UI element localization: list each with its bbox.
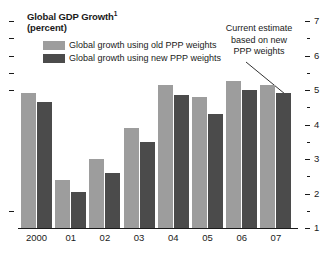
y-axis-left-tick bbox=[9, 73, 14, 74]
y-axis-tick-label: 4 bbox=[314, 120, 326, 129]
bar-group bbox=[260, 21, 292, 228]
bar bbox=[226, 81, 241, 228]
y-axis-tick bbox=[305, 21, 310, 22]
bar-group bbox=[55, 21, 87, 228]
y-axis-minor-tick bbox=[307, 142, 310, 143]
bar-group bbox=[124, 21, 156, 228]
y-axis-minor-tick bbox=[307, 38, 310, 39]
bar-group bbox=[21, 21, 53, 228]
bar-group bbox=[192, 21, 224, 228]
y-axis-tick-label: 1 bbox=[314, 223, 326, 232]
x-axis-tick-label: 07 bbox=[252, 232, 299, 243]
chart-container: Global GDP Growth1 (percent) Global grow… bbox=[0, 0, 330, 265]
y-axis-minor-tick bbox=[307, 176, 310, 177]
y-axis-tick bbox=[305, 125, 310, 126]
y-axis-minor-tick bbox=[307, 73, 310, 74]
y-axis-minor-tick bbox=[307, 107, 310, 108]
bar bbox=[71, 192, 86, 228]
bar bbox=[158, 85, 173, 228]
y-axis-tick-label: 2 bbox=[314, 189, 326, 198]
bar-group bbox=[226, 21, 258, 228]
y-axis-tick bbox=[305, 228, 310, 229]
y-axis-tick bbox=[305, 56, 310, 57]
bar-group bbox=[89, 21, 121, 228]
bar bbox=[89, 159, 104, 228]
bar bbox=[37, 102, 52, 228]
bar-group bbox=[158, 21, 190, 228]
bar bbox=[276, 93, 291, 228]
bars-layer bbox=[18, 21, 296, 228]
y-axis-left-tick bbox=[9, 90, 14, 91]
bar bbox=[260, 85, 275, 228]
bar bbox=[192, 97, 207, 228]
bar bbox=[124, 128, 139, 228]
bar bbox=[55, 180, 70, 228]
bar bbox=[208, 114, 223, 228]
x-axis-baseline bbox=[18, 228, 298, 229]
bar bbox=[21, 93, 36, 228]
y-axis-tick-label: 7 bbox=[314, 16, 326, 25]
y-axis-minor-tick bbox=[307, 211, 310, 212]
bar bbox=[242, 90, 257, 228]
y-axis-left-tick bbox=[9, 21, 14, 22]
y-axis-left-tick bbox=[9, 38, 14, 39]
chart-title-footnote-marker: 1 bbox=[114, 10, 118, 17]
y-axis-left-tick bbox=[9, 211, 14, 212]
bar bbox=[174, 95, 189, 228]
y-axis-tick-label: 3 bbox=[314, 154, 326, 163]
y-axis-tick-label: 5 bbox=[314, 85, 326, 94]
y-axis-left-tick bbox=[9, 56, 14, 57]
y-axis-tick bbox=[305, 159, 310, 160]
y-axis-tick bbox=[305, 194, 310, 195]
bar bbox=[105, 173, 120, 228]
y-axis-tick bbox=[305, 90, 310, 91]
bar bbox=[140, 142, 155, 228]
y-axis-tick-label: 6 bbox=[314, 51, 326, 60]
